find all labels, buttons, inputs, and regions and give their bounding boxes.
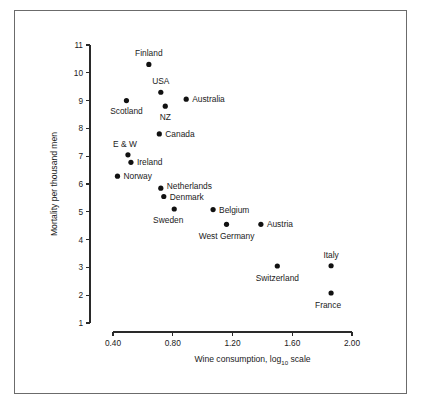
data-point-marker[interactable] xyxy=(115,174,120,179)
data-point[interactable]: Australia xyxy=(184,94,226,104)
data-point[interactable]: NZ xyxy=(160,104,171,123)
data-point[interactable]: Netherlands xyxy=(158,181,212,191)
data-point-label: Australia xyxy=(192,94,225,104)
x-axis-title-tail: scale xyxy=(288,354,311,364)
data-point-label: Austria xyxy=(267,219,293,229)
y-axis-tick-label: 7 xyxy=(78,151,83,161)
data-point-marker[interactable] xyxy=(161,194,166,199)
y-axis-tick-label: 1 xyxy=(78,318,83,328)
data-point-marker[interactable] xyxy=(258,222,263,227)
scatter-plot: 1234567891011 0.400.801.201.602.00 Finla… xyxy=(0,0,422,411)
y-axis-tick-label: 8 xyxy=(78,123,83,133)
x-axis-tick-label: 2.00 xyxy=(344,338,361,348)
x-axis-title: Wine consumption, log10 scale xyxy=(194,354,310,366)
data-point-label: Switzerland xyxy=(256,273,300,283)
data-point-label: E & W xyxy=(113,139,137,149)
x-axis-tick-label: 1.20 xyxy=(224,338,241,348)
x-axis-tick-label: 1.60 xyxy=(284,338,301,348)
data-point-label: Norway xyxy=(123,171,152,181)
data-point-marker[interactable] xyxy=(328,263,333,268)
axis-titles-layer: Wine consumption, log10 scaleMortality p… xyxy=(49,132,311,366)
data-point[interactable]: West Germany xyxy=(199,222,256,242)
data-point[interactable]: Belgium xyxy=(210,205,249,215)
y-axis-tick-label: 2 xyxy=(78,290,83,300)
data-point-marker[interactable] xyxy=(157,131,162,136)
data-points-layer: FinlandUSAScotlandNZAustraliaCanadaE & W… xyxy=(110,48,341,310)
data-point[interactable]: Scotland xyxy=(110,98,143,116)
data-point-marker[interactable] xyxy=(124,98,129,103)
data-point-marker[interactable] xyxy=(125,152,130,157)
data-point-label: France xyxy=(315,300,341,310)
data-point-label: Denmark xyxy=(170,192,205,202)
data-point[interactable]: USA xyxy=(152,76,170,95)
y-axis-tick-label: 9 xyxy=(78,96,83,106)
data-point-label: Belgium xyxy=(219,205,249,215)
data-point-marker[interactable] xyxy=(146,62,151,67)
data-point[interactable]: Finland xyxy=(135,48,163,67)
x-axis: 0.400.801.201.602.00 xyxy=(105,332,361,348)
data-point-label: West Germany xyxy=(199,231,256,241)
data-point-label: Ireland xyxy=(137,157,163,167)
y-axis-tick-label: 4 xyxy=(78,235,83,245)
data-point[interactable]: Italy xyxy=(323,250,339,269)
y-axis-tick-label: 6 xyxy=(78,179,83,189)
y-axis-tick-label: 5 xyxy=(78,207,83,217)
data-point[interactable]: Norway xyxy=(115,171,153,181)
x-axis-tick-label: 0.80 xyxy=(165,338,182,348)
y-axis-tick-label: 11 xyxy=(74,40,83,50)
figure-container: 1234567891011 0.400.801.201.602.00 Finla… xyxy=(0,0,422,411)
data-point[interactable]: Canada xyxy=(157,129,195,139)
data-point-marker[interactable] xyxy=(275,263,280,268)
data-point-label: NZ xyxy=(160,112,171,122)
x-axis-title-main: Wine consumption, log xyxy=(194,354,281,364)
data-point-label: Sweden xyxy=(153,215,184,225)
y-axis: 1234567891011 xyxy=(74,40,90,328)
data-point[interactable]: Denmark xyxy=(161,192,204,202)
data-point-label: Finland xyxy=(135,48,163,58)
data-point-label: Canada xyxy=(165,129,195,139)
data-point[interactable]: Austria xyxy=(258,219,293,229)
data-point-label: Netherlands xyxy=(167,181,212,191)
data-point-marker[interactable] xyxy=(128,160,133,165)
data-point[interactable]: E & W xyxy=(113,139,137,158)
x-axis-tick-label: 0.40 xyxy=(105,338,122,348)
data-point[interactable]: Ireland xyxy=(128,157,163,167)
y-axis-tick-label: 10 xyxy=(74,68,84,78)
data-point[interactable]: Sweden xyxy=(153,206,184,225)
data-point-label: Italy xyxy=(323,250,339,260)
data-point-marker[interactable] xyxy=(163,104,168,109)
y-axis-title: Mortality per thousand men xyxy=(49,132,59,236)
y-axis-tick-label: 3 xyxy=(78,262,83,272)
data-point-marker[interactable] xyxy=(328,290,333,295)
data-point-marker[interactable] xyxy=(210,207,215,212)
data-point-label: USA xyxy=(152,76,170,86)
data-point-marker[interactable] xyxy=(224,222,229,227)
data-point-marker[interactable] xyxy=(158,186,163,191)
data-point[interactable]: France xyxy=(315,290,341,310)
data-point-marker[interactable] xyxy=(184,97,189,102)
data-point-label: Scotland xyxy=(110,106,143,116)
data-point-marker[interactable] xyxy=(172,206,177,211)
data-point-marker[interactable] xyxy=(158,90,163,95)
data-point[interactable]: Switzerland xyxy=(256,263,300,283)
